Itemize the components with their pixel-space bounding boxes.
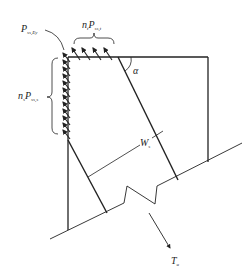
- angle-label: α: [133, 65, 139, 76]
- side-force-label: nsPss,s: [18, 90, 38, 103]
- width-dimension-line: [88, 145, 140, 177]
- width-label: Ws: [140, 137, 150, 149]
- side-arrows: [63, 53, 70, 139]
- diagram-canvas: Pss,Ey ntPss,t nsPss,s α Ws Tu: [0, 0, 242, 274]
- side-brace: [47, 58, 58, 134]
- top-arrows: [72, 48, 112, 60]
- crack-baseline: [50, 139, 242, 239]
- tension-arrow: [149, 213, 170, 248]
- angle-arc: [125, 57, 131, 71]
- inner-diagonal: [68, 140, 107, 213]
- tension-label: Tu: [171, 255, 180, 267]
- p-corner-label: Pss,Ey: [20, 23, 38, 36]
- p-corner-leader: [45, 30, 64, 50]
- top-brace: [74, 33, 114, 44]
- diagonal-strut: [118, 57, 178, 180]
- top-force-label: ntPss,t: [82, 19, 102, 32]
- frame: [50, 57, 242, 248]
